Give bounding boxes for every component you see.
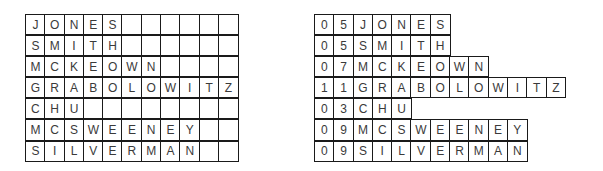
- empty-padding-cell: [199, 56, 220, 77]
- character-cell: W: [488, 77, 509, 98]
- character-cell: K: [391, 56, 412, 77]
- prefixed-record-row: 11GRABOLOWITZ: [314, 77, 565, 98]
- character-cell: N: [391, 14, 412, 35]
- character-cell: T: [83, 35, 104, 56]
- character-cell: H: [430, 35, 451, 56]
- character-cell: S: [64, 119, 85, 140]
- character-cell: E: [160, 119, 181, 140]
- character-cell: E: [430, 141, 451, 162]
- character-cell: L: [121, 77, 142, 98]
- empty-padding-cell: [199, 14, 220, 35]
- character-cell: O: [430, 56, 451, 77]
- length-prefix-digit-cell: 7: [333, 56, 354, 77]
- character-cell: I: [391, 35, 412, 56]
- character-cell: I: [507, 77, 528, 98]
- character-cell: B: [83, 77, 104, 98]
- character-cell: R: [372, 77, 393, 98]
- empty-padding-cell: [121, 35, 142, 56]
- character-cell: N: [64, 14, 85, 35]
- character-cell: E: [121, 119, 142, 140]
- character-cell: S: [25, 141, 46, 162]
- character-cell: N: [141, 56, 162, 77]
- character-cell: A: [160, 141, 181, 162]
- empty-padding-cell: [179, 35, 200, 56]
- character-cell: N: [179, 141, 200, 162]
- character-cell: H: [102, 35, 123, 56]
- character-cell: N: [141, 119, 162, 140]
- character-cell: O: [102, 77, 123, 98]
- length-prefix-digit-cell: 0: [314, 56, 335, 77]
- character-cell: C: [44, 119, 65, 140]
- character-cell: C: [372, 56, 393, 77]
- character-cell: E: [410, 56, 431, 77]
- character-cell: M: [44, 35, 65, 56]
- fixed-length-record-grid: JONESSMITHMCKEOWNGRABOLOWITZCHUMCSWEENEY…: [25, 14, 237, 162]
- character-cell: A: [488, 141, 509, 162]
- length-prefix-digit-cell: 0: [314, 35, 335, 56]
- fixed-record-row: JONES: [25, 14, 237, 35]
- character-cell: S: [430, 14, 451, 35]
- character-cell: L: [449, 77, 470, 98]
- prefixed-record-row: 05JONES: [314, 14, 565, 35]
- character-cell: E: [449, 119, 470, 140]
- character-cell: A: [64, 77, 85, 98]
- character-cell: E: [83, 56, 104, 77]
- empty-padding-cell: [199, 141, 220, 162]
- fixed-record-row: GRABOLOWITZ: [25, 77, 237, 98]
- character-cell: C: [372, 119, 393, 140]
- character-cell: M: [353, 119, 374, 140]
- character-cell: V: [410, 141, 431, 162]
- empty-padding-cell: [218, 141, 239, 162]
- character-cell: S: [391, 119, 412, 140]
- length-prefix-digit-cell: 9: [333, 141, 354, 162]
- character-cell: T: [410, 35, 431, 56]
- empty-padding-cell: [141, 98, 162, 119]
- character-cell: M: [25, 56, 46, 77]
- empty-padding-cell: [121, 14, 142, 35]
- character-cell: M: [468, 141, 489, 162]
- character-cell: S: [102, 14, 123, 35]
- prefixed-record-row: 09SILVERMAN: [314, 141, 565, 162]
- character-cell: A: [391, 77, 412, 98]
- character-cell: R: [449, 141, 470, 162]
- empty-padding-cell: [199, 35, 220, 56]
- empty-padding-cell: [160, 35, 181, 56]
- empty-padding-cell: [199, 119, 220, 140]
- character-cell: M: [141, 141, 162, 162]
- character-cell: E: [102, 141, 123, 162]
- empty-padding-cell: [160, 98, 181, 119]
- length-prefix-digit-cell: 0: [314, 141, 335, 162]
- character-cell: I: [44, 141, 65, 162]
- empty-padding-cell: [121, 98, 142, 119]
- character-cell: W: [160, 77, 181, 98]
- length-prefix-digit-cell: 5: [333, 14, 354, 35]
- length-prefixed-record-grid: 05JONES05SMITH07MCKEOWN11GRABOLOWITZ03CH…: [314, 14, 565, 162]
- fixed-record-row: MCKEOWN: [25, 56, 237, 77]
- empty-padding-cell: [179, 98, 200, 119]
- character-cell: E: [83, 14, 104, 35]
- character-cell: O: [102, 56, 123, 77]
- empty-padding-cell: [141, 35, 162, 56]
- character-cell: I: [372, 141, 393, 162]
- character-cell: M: [372, 35, 393, 56]
- length-prefix-digit-cell: 0: [314, 98, 335, 119]
- character-cell: B: [410, 77, 431, 98]
- fixed-record-row: SMITH: [25, 35, 237, 56]
- empty-padding-cell: [218, 119, 239, 140]
- character-cell: G: [25, 77, 46, 98]
- length-prefix-digit-cell: 0: [314, 14, 335, 35]
- character-cell: M: [25, 119, 46, 140]
- empty-padding-cell: [102, 98, 123, 119]
- empty-padding-cell: [199, 98, 220, 119]
- character-cell: T: [526, 77, 547, 98]
- empty-padding-cell: [179, 14, 200, 35]
- character-cell: J: [353, 14, 374, 35]
- empty-padding-cell: [218, 98, 239, 119]
- length-prefix-digit-cell: 0: [314, 119, 335, 140]
- character-cell: S: [353, 35, 374, 56]
- character-cell: E: [488, 119, 509, 140]
- character-cell: T: [199, 77, 220, 98]
- character-cell: C: [353, 98, 374, 119]
- character-cell: S: [25, 35, 46, 56]
- character-cell: Y: [507, 119, 528, 140]
